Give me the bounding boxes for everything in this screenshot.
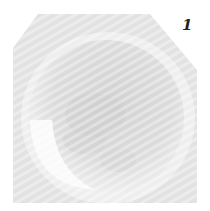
micrograph-image <box>0 0 210 211</box>
panel-label: 1 <box>182 18 192 33</box>
micrograph-panel: 1 <box>0 0 210 211</box>
